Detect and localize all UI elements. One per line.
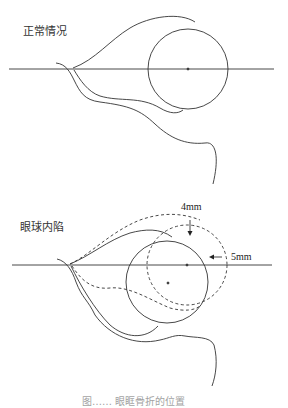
orbit-lower-contour-displaced [71, 266, 158, 336]
orbit-upper-contour-displaced [70, 230, 172, 264]
eyeball-center-original [186, 264, 188, 266]
arrow-4mm-head-icon [188, 231, 193, 236]
orbit-upper-contour-normal [73, 16, 195, 68]
eyeball-center-displaced [167, 282, 169, 284]
orbit-lower-contour-original [72, 266, 200, 310]
panel-label-enophthalmos: 眼球内陷 [20, 218, 64, 234]
annotation-5mm: 5mm [231, 251, 252, 262]
figure-caption: 图…… 眼眶骨折的位置 [82, 393, 185, 408]
annotation-4mm: 4mm [181, 201, 202, 212]
facial-bone-contour-enophthalmos [57, 259, 216, 386]
arrow-5mm-head-icon [209, 255, 214, 260]
orbit-lower-contour-normal [74, 70, 183, 113]
facial-bone-contour-normal [56, 63, 216, 184]
panel-label-normal: 正常情况 [23, 22, 67, 38]
eyeball-center-normal [187, 68, 189, 70]
